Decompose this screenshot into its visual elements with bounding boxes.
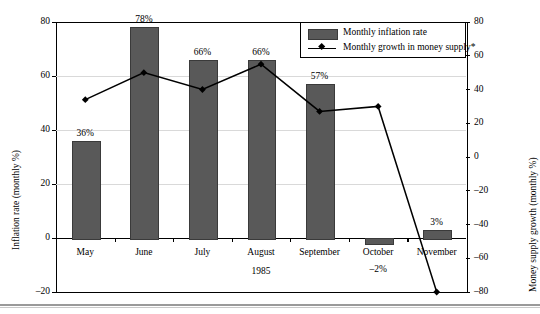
bar-label-november: 3% [407, 217, 466, 227]
bar-label-may: 36% [56, 128, 115, 138]
y-tickmark-left-60 [52, 76, 56, 77]
x-tickmark-3 [290, 238, 291, 242]
bar-label-august: 66% [232, 47, 291, 57]
bar-label-june: 78% [115, 14, 174, 24]
bar-label-september: 57% [290, 71, 349, 81]
line-marker-june [140, 69, 147, 76]
x-tickmark-1 [173, 238, 174, 242]
y-tickmark-left-0 [52, 238, 56, 239]
y-tick-left--20: –20 [10, 287, 50, 297]
y-tick-right-60: 60 [474, 51, 514, 61]
y-tick-right-40: 40 [474, 85, 514, 95]
x-axis-title: 1985 [252, 266, 271, 276]
legend-label-inflation: Monthly inflation rate [343, 27, 427, 37]
y-axis-right-title: Money supply growth (monthly %) [528, 157, 538, 292]
x-tickmark-5 [407, 238, 408, 242]
bar-label-july: 66% [173, 47, 232, 57]
x-label-july: July [195, 247, 211, 257]
line-marker-may [82, 96, 89, 103]
y-tickmark-right--80 [466, 292, 470, 293]
x-label-august: August [247, 247, 274, 257]
chart-container: 36%78%66%66%57%–2%3% 806040200–20 806040… [0, 0, 540, 314]
y-tick-right-80: 80 [474, 17, 514, 27]
x-label-may: May [77, 247, 94, 257]
x-tickmark-4 [349, 238, 350, 242]
y-tickmark-left-80 [52, 22, 56, 23]
y-tick-right--80: –80 [474, 287, 514, 297]
y-tick-right--60: –60 [474, 253, 514, 263]
y-tick-right--20: –20 [474, 186, 514, 196]
y-tickmark-left-20 [52, 184, 56, 185]
chart-legend: Monthly inflation rate Monthly growth in… [300, 22, 466, 58]
bottom-divider-secondary [0, 307, 540, 308]
y-tick-right-0: 0 [474, 152, 514, 162]
y-tickmark-left--20 [52, 292, 56, 293]
y-tickmark-right-20 [466, 123, 470, 124]
y-tick-right--40: –40 [474, 220, 514, 230]
line-marker-october [375, 103, 382, 110]
y-tick-right-20: 20 [474, 118, 514, 128]
y-tick-left-60: 60 [10, 71, 50, 81]
y-tickmark-right-60 [466, 55, 470, 56]
x-label-june: June [135, 247, 152, 257]
legend-label-money-supply: Monthly growth in money supply* [343, 42, 475, 52]
x-tickmark-0 [115, 238, 116, 242]
y-tickmark-right-80 [466, 22, 470, 23]
y-tick-left-80: 80 [10, 17, 50, 27]
y-tickmark-right-0 [466, 157, 470, 158]
y-axis-left-title: Inflation rate (monthly %) [11, 150, 21, 250]
y-tickmark-right-40 [466, 89, 470, 90]
y-tick-left-40: 40 [10, 125, 50, 135]
x-label-october: October [363, 247, 394, 257]
y-tickmark-right--40 [466, 224, 470, 225]
y-tickmark-left-40 [52, 130, 56, 131]
y-tickmark-right--20 [466, 190, 470, 191]
bar-label-october: –2% [349, 264, 408, 274]
x-tickmark-2 [232, 238, 233, 242]
x-label-november: November [417, 247, 457, 257]
line-marker-november [433, 289, 440, 296]
legend-diamond-icon [318, 43, 326, 51]
y-tickmark-right--60 [466, 258, 470, 259]
legend-swatch-icon [308, 29, 338, 40]
bottom-divider [0, 304, 540, 306]
x-label-september: September [299, 247, 340, 257]
line-marker-july [199, 86, 206, 93]
